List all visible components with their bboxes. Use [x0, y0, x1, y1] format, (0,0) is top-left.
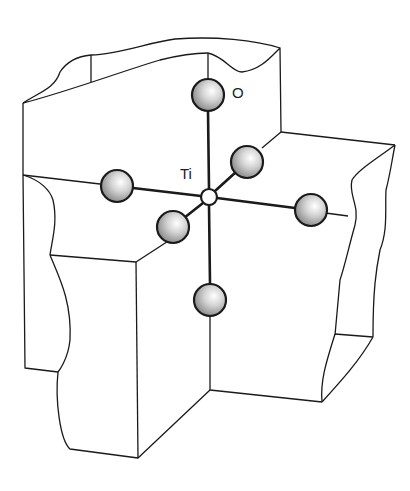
oxygen-atom-top: [192, 79, 224, 111]
bond-top: [208, 111, 209, 189]
oxygen-label: O: [232, 84, 244, 101]
titanium-label: Ti: [180, 165, 192, 182]
oxygen-atom-right: [295, 194, 327, 226]
oxygen-atom-back: [231, 146, 263, 178]
oxygen-atom-front: [157, 211, 189, 243]
bond-front: [184, 203, 203, 218]
bond-back: [215, 172, 236, 191]
tio6-octahedron-diagram: [0, 0, 410, 491]
oxygen-atom-bottom: [194, 284, 226, 316]
oxygen-atom-left: [101, 170, 133, 202]
bond-left: [133, 188, 201, 196]
bond-bottom: [209, 205, 210, 284]
bond-right: [217, 198, 295, 208]
titanium-atom: [201, 189, 217, 205]
